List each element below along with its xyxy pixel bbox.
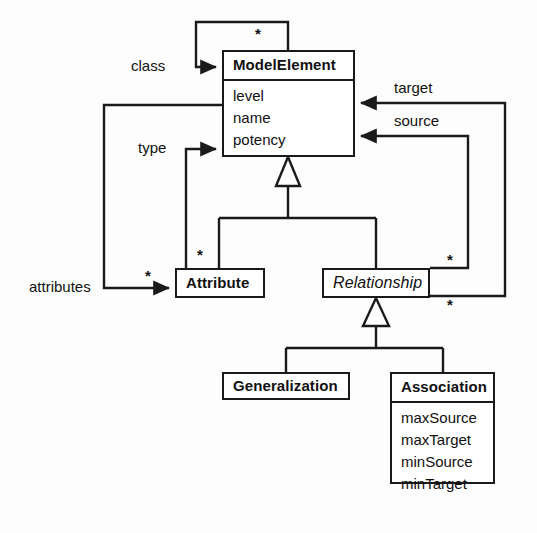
- edge-label-type: type: [138, 139, 166, 156]
- class-box-relationship[interactable]: Relationship: [322, 268, 430, 298]
- edge-attributes-association: [104, 105, 222, 288]
- class-name-association: Association: [392, 374, 493, 401]
- multiplicity-attributes-left: *: [145, 268, 151, 283]
- class-attribute-item: level: [233, 85, 353, 107]
- multiplicity-target: *: [447, 297, 453, 312]
- class-attribute-item: maxTarget: [401, 429, 493, 451]
- class-attribute-item: minSource: [401, 451, 493, 473]
- class-box-attribute[interactable]: Attribute: [175, 268, 265, 298]
- class-box-modelelement[interactable]: ModelElement level name potency: [222, 50, 355, 157]
- edge-label-class: class: [131, 57, 165, 74]
- class-attribute-item: name: [233, 107, 353, 129]
- edge-label-target: target: [394, 79, 432, 96]
- edge-label-source: source: [394, 112, 439, 129]
- class-name-attribute: Attribute: [177, 270, 263, 297]
- class-name-modelelement: ModelElement: [224, 52, 353, 79]
- generalization-triangle-modelelement: [276, 157, 300, 186]
- multiplicity-attributes-right: *: [197, 247, 203, 262]
- class-attribute-item: minTarget: [401, 473, 493, 495]
- multiplicity-class: *: [255, 26, 261, 41]
- generalization-triangle-relationship: [363, 298, 389, 326]
- class-name-relationship: Relationship: [324, 270, 428, 296]
- class-box-association[interactable]: Association maxSource maxTarget minSourc…: [390, 372, 495, 484]
- class-name-generalization: Generalization: [224, 374, 348, 399]
- class-attributes-association: maxSource maxTarget minSource minTarget: [392, 403, 493, 501]
- multiplicity-source: *: [447, 252, 453, 267]
- class-attribute-item: potency: [233, 129, 353, 151]
- class-box-generalization[interactable]: Generalization: [222, 372, 350, 400]
- class-attribute-item: maxSource: [401, 407, 493, 429]
- edge-label-attributes: attributes: [29, 278, 91, 295]
- uml-class-diagram-canvas: ModelElement level name potency Attribut…: [0, 0, 537, 533]
- class-attributes-modelelement: level name potency: [224, 81, 353, 157]
